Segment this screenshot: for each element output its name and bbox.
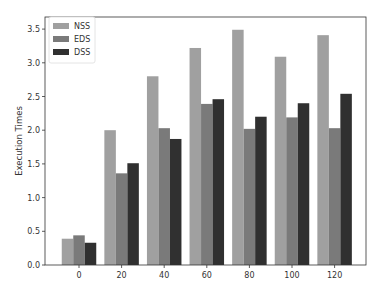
bar-nss-60 [190,48,202,265]
legend-label-eds: EDS [74,35,90,44]
bar-chart: 0.00.51.01.52.02.53.03.5 020406080100120… [0,0,382,297]
bar-eds-0 [73,235,85,265]
y-axis-label: Execution Times [14,106,24,176]
bar-nss-0 [62,239,74,265]
y-tick-label: 0.5 [27,227,40,236]
bar-eds-80 [244,129,256,265]
bar-nss-40 [147,76,159,265]
y-tick-label: 0.0 [27,261,40,270]
x-tick-label: 100 [284,271,299,280]
x-tick-label: 40 [159,271,169,280]
bar-dss-60 [213,99,225,265]
bar-eds-20 [116,173,128,265]
y-tick-label: 3.5 [27,25,40,34]
legend: NSSEDSDSS [49,17,95,63]
legend-swatch-eds [53,36,69,42]
bars-group [62,30,352,265]
y-tick-label: 2.0 [27,126,40,135]
bar-eds-60 [201,104,213,265]
x-tick-label: 60 [202,271,212,280]
x-tick-label: 80 [244,271,254,280]
bar-dss-80 [255,117,267,265]
bar-dss-100 [298,103,310,265]
y-tick-label: 1.0 [27,194,40,203]
legend-label-dss: DSS [74,48,90,57]
x-tick-label: 120 [327,271,342,280]
y-tick-label: 3.0 [27,59,40,68]
bar-nss-20 [104,130,116,265]
bar-nss-100 [275,57,287,265]
x-tick-label: 0 [76,271,81,280]
bar-dss-0 [85,243,97,265]
x-tick-label: 20 [117,271,127,280]
bar-eds-100 [286,117,298,265]
legend-label-nss: NSS [74,22,90,31]
bar-nss-80 [232,30,244,265]
bar-dss-20 [127,163,139,265]
legend-swatch-dss [53,49,69,55]
x-axis: 020406080100120 [76,265,342,280]
bar-dss-40 [170,139,182,265]
y-axis: 0.00.51.01.52.02.53.03.5 [27,25,45,270]
y-tick-label: 2.5 [27,93,40,102]
bar-dss-120 [340,94,352,265]
legend-swatch-nss [53,23,69,29]
bar-eds-40 [158,128,170,265]
bar-nss-120 [317,35,329,265]
bar-eds-120 [329,128,341,265]
y-tick-label: 1.5 [27,160,40,169]
